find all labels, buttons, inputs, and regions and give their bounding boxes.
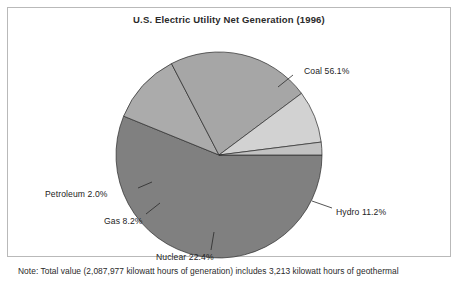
pie-slice-group bbox=[116, 52, 322, 258]
pie-svg bbox=[7, 7, 451, 257]
pie-chart-figure: U.S. Electric Utility Net Generation (19… bbox=[0, 0, 458, 285]
pie-plot-area: Coal 56.1% Hydro 11.2% Nuclear 22.4% Gas… bbox=[7, 7, 451, 257]
slice-label-coal: Coal 56.1% bbox=[304, 66, 349, 76]
slice-label-petroleum: Petroleum 2.0% bbox=[45, 189, 108, 199]
leader-line-hydro bbox=[312, 201, 332, 208]
slice-label-nuclear: Nuclear 22.4% bbox=[156, 252, 214, 262]
chart-footnote: Note: Total value (2,087,977 kilowatt ho… bbox=[18, 266, 454, 276]
slice-label-hydro: Hydro 11.2% bbox=[336, 207, 386, 217]
slice-label-gas: Gas 8.2% bbox=[104, 216, 143, 226]
